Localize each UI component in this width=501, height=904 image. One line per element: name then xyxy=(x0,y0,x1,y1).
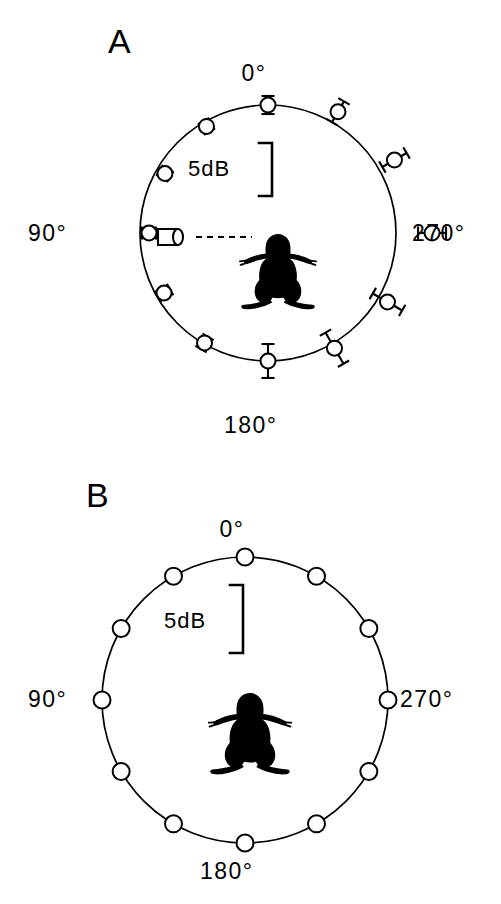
data-point xyxy=(326,98,349,125)
error-bar-cap-outer xyxy=(399,305,406,316)
polar-plot-b xyxy=(0,460,501,904)
data-point xyxy=(261,344,276,378)
data-point-marker xyxy=(165,568,182,585)
error-bar-cap-outer xyxy=(403,147,410,158)
data-point-marker xyxy=(387,152,402,167)
error-bar-cap-outer xyxy=(338,361,349,368)
data-point xyxy=(237,835,254,852)
axis-label-90-degrees: 90° xyxy=(28,688,67,711)
data-point-marker xyxy=(360,763,377,780)
scale-bar-bracket xyxy=(230,585,243,653)
frog-silhouette-B xyxy=(209,693,291,774)
axis-label-90-degrees: 90° xyxy=(28,222,67,245)
sound-source-group xyxy=(158,229,252,245)
data-point-marker xyxy=(165,815,182,832)
data-point-marker xyxy=(308,568,325,585)
frog-foot-right xyxy=(256,763,290,774)
axis-label-270-degrees: 270° xyxy=(400,688,454,711)
figure-directionality: A 5dB0°90°270°180° B 5dB0°90°270°180° xyxy=(0,0,501,904)
frog-foot-right xyxy=(284,299,315,309)
data-point xyxy=(360,763,377,780)
data-point-marker xyxy=(157,166,172,181)
data-point-marker xyxy=(380,692,397,709)
data-point-marker xyxy=(142,226,157,241)
data-point-group xyxy=(142,96,447,378)
data-point xyxy=(237,549,254,566)
error-bar-cap-inner xyxy=(320,329,331,336)
speaker-mouth xyxy=(173,229,183,245)
panel-b: B 5dB0°90°270°180° xyxy=(0,460,501,904)
data-point-marker xyxy=(261,98,276,113)
axis-label-270-degrees: 270° xyxy=(412,222,466,245)
data-point-marker xyxy=(157,286,172,301)
axis-label-180-degrees: 180° xyxy=(200,860,254,883)
data-point xyxy=(165,568,182,585)
data-point xyxy=(380,692,397,709)
data-point xyxy=(308,568,325,585)
axis-label-0-degrees: 0° xyxy=(220,518,245,541)
data-point-marker xyxy=(380,294,395,309)
data-point-marker xyxy=(360,620,377,637)
data-point-marker xyxy=(261,354,276,369)
data-point-marker xyxy=(113,763,130,780)
data-point xyxy=(142,226,157,241)
data-point-marker xyxy=(330,104,345,119)
data-point xyxy=(165,815,182,832)
data-point xyxy=(198,118,215,135)
data-point-marker xyxy=(94,692,111,709)
panel-a: A 5dB0°90°270°180° xyxy=(0,0,501,460)
data-point xyxy=(155,284,174,302)
data-point-marker xyxy=(237,549,254,566)
scale-bar-label: 5dB xyxy=(188,158,230,180)
frog-foot-left xyxy=(210,763,244,774)
data-point-marker xyxy=(237,835,254,852)
frog-foot-left xyxy=(241,299,272,309)
data-point xyxy=(308,815,325,832)
data-point xyxy=(113,620,130,637)
data-point xyxy=(195,334,213,353)
data-point xyxy=(94,692,111,709)
data-point xyxy=(156,165,173,182)
frog-silhouette-A xyxy=(240,234,316,309)
error-bar-cap-inner xyxy=(370,288,377,299)
axis-label-0-degrees: 0° xyxy=(242,62,267,85)
data-point-marker xyxy=(327,341,342,356)
data-point xyxy=(261,96,276,114)
data-point xyxy=(379,147,410,172)
data-point xyxy=(360,620,377,637)
data-point-marker xyxy=(113,620,130,637)
scale-bar-label: 5dB xyxy=(164,610,206,632)
axis-label-180-degrees: 180° xyxy=(224,414,278,437)
data-point-marker xyxy=(197,335,212,350)
data-point-marker xyxy=(199,119,214,134)
data-point-marker xyxy=(308,815,325,832)
scale-bar-bracket xyxy=(259,143,272,196)
data-point xyxy=(113,763,130,780)
